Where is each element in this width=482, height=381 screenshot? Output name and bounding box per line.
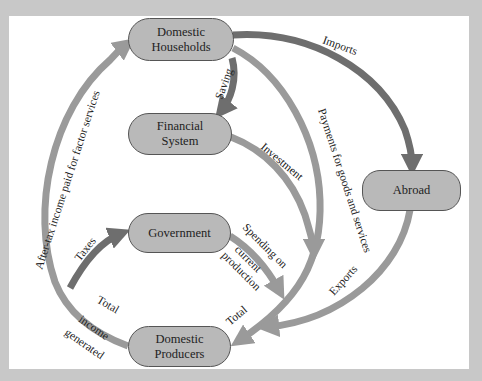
node-government: Government: [128, 213, 231, 253]
node-abroad-line1: Abroad: [393, 183, 431, 198]
node-financial-line1: Financial: [157, 119, 204, 134]
imports-arrow: [233, 35, 412, 165]
node-financial-system: Financial System: [128, 113, 232, 155]
node-government-line1: Government: [148, 226, 210, 241]
node-households-line1: Domestic: [151, 25, 210, 40]
label-total-right: Total: [224, 303, 250, 327]
node-financial-line2: System: [157, 134, 204, 149]
payments-arrow: [233, 48, 320, 340]
node-producers-line2: Producers: [155, 347, 205, 362]
node-domestic-households: Domestic Households: [128, 18, 234, 61]
exports-arrow: [268, 210, 410, 327]
label-total-left: Total: [95, 293, 121, 315]
node-domestic-producers: Domestic Producers: [128, 326, 231, 367]
node-households-line2: Households: [151, 40, 210, 55]
node-producers-line1: Domestic: [155, 332, 205, 347]
node-abroad: Abroad: [362, 170, 461, 211]
